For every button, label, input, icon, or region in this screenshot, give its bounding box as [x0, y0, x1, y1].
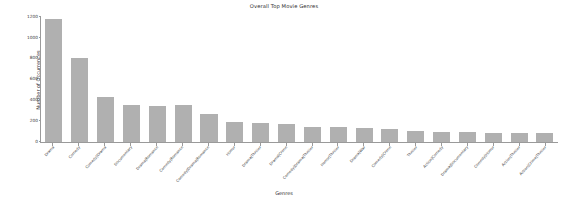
x-tick-label-slot: Comedy|Drama|Romance: [195, 146, 221, 186]
bar-series: [41, 17, 558, 142]
bar: [536, 133, 553, 142]
bar-slot: [274, 17, 300, 142]
bar: [175, 105, 192, 142]
bar: [356, 128, 373, 142]
bar-slot: [144, 17, 170, 142]
bar: [226, 122, 243, 142]
plot-inner: 020040060080010001200: [41, 17, 558, 142]
x-axis-tick-labels: DramaComedyComedy|DramaDocumentaryDrama|…: [40, 146, 558, 186]
x-tick-label: Documentary: [114, 146, 134, 167]
x-tick-label: Horror: [226, 146, 237, 157]
bar-slot: [532, 17, 558, 142]
bar: [433, 132, 450, 142]
bar-slot: [93, 17, 119, 142]
x-tick-label-slot: Drama|Thriller: [247, 146, 273, 186]
bar-slot: [196, 17, 222, 142]
bar-slot: [351, 17, 377, 142]
bar-slot: [41, 17, 67, 142]
x-tick-label-slot: Drama: [40, 146, 66, 186]
x-tick-label-slot: Comedy|Drama: [92, 146, 118, 186]
chart-figure: Overall Top Movie Genres Number of Occur…: [0, 0, 568, 212]
bar-slot: [222, 17, 248, 142]
bar: [45, 19, 62, 142]
bar: [459, 132, 476, 142]
x-tick-label: Drama: [45, 146, 56, 158]
x-axis-title: Genres: [0, 190, 568, 196]
x-tick-label: Drama|Crime: [270, 146, 289, 167]
bar: [97, 97, 114, 142]
bar-slot: [67, 17, 93, 142]
x-tick-label: Thriller: [407, 146, 418, 158]
bar-slot: [299, 17, 325, 142]
x-tick-label: Drama|War: [350, 146, 367, 164]
bar: [278, 124, 295, 142]
bar-slot: [119, 17, 145, 142]
x-tick-label-slot: Action|Crime|Thriller: [532, 146, 558, 186]
bar: [485, 133, 502, 142]
bar-slot: [248, 17, 274, 142]
x-tick-label-slot: Horror|Thriller: [325, 146, 351, 186]
bar: [407, 131, 424, 142]
plot-area: 020040060080010001200: [40, 17, 558, 143]
bar: [252, 123, 269, 142]
bar: [200, 114, 217, 142]
bar-slot: [455, 17, 481, 142]
bar: [511, 133, 528, 142]
bar: [123, 105, 140, 143]
bar-slot: [403, 17, 429, 142]
bar: [381, 129, 398, 142]
bar-slot: [429, 17, 455, 142]
bar-slot: [480, 17, 506, 142]
x-tick-label-slot: Comedy|Crime: [377, 146, 403, 186]
chart-title: Overall Top Movie Genres: [0, 3, 568, 9]
bar: [149, 106, 166, 142]
x-tick-label: Comedy: [69, 146, 82, 160]
bar-slot: [506, 17, 532, 142]
bar: [304, 127, 321, 142]
bar-slot: [325, 17, 351, 142]
bar: [71, 58, 88, 142]
bar-slot: [377, 17, 403, 142]
bar: [330, 127, 347, 142]
bar-slot: [170, 17, 196, 142]
